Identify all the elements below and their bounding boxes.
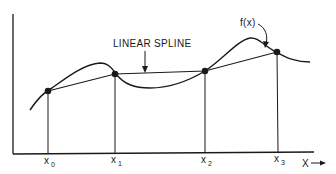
svg-text:2: 2	[208, 160, 212, 167]
svg-text:x: x	[111, 154, 116, 165]
svg-text:x: x	[274, 153, 279, 164]
knot-point-x3	[274, 49, 281, 56]
svg-text:3: 3	[281, 159, 285, 166]
knot-point-x2	[202, 68, 209, 75]
tick-label-x1: x 1	[111, 154, 122, 167]
svg-text:1: 1	[118, 160, 122, 167]
tick-label-x3: x 3	[274, 153, 285, 166]
arrow-right-icon	[320, 161, 326, 166]
tick-label-x2: x 2	[201, 154, 212, 167]
knot-point-x0	[45, 88, 52, 95]
svg-text:x: x	[201, 154, 206, 165]
knot-line-x3	[277, 52, 278, 152]
x-axis	[13, 152, 314, 154]
tick-label-x0: x 0	[44, 155, 55, 168]
diagram-canvas: LINEAR SPLINE f(x) x 0 x 1 x 2 x 3 X	[0, 0, 336, 174]
svg-text:0: 0	[51, 161, 55, 168]
linear-spline	[48, 52, 277, 91]
function-label: f(x)	[240, 17, 256, 28]
linear-spline-diagram: LINEAR SPLINE f(x) x 0 x 1 x 2 x 3 X	[0, 0, 336, 174]
svg-text:x: x	[44, 155, 49, 166]
arrow-down-icon	[142, 66, 148, 73]
x-axis-label: X	[302, 158, 309, 169]
knot-point-x1	[112, 71, 119, 78]
linear-spline-label: LINEAR SPLINE	[113, 38, 191, 49]
